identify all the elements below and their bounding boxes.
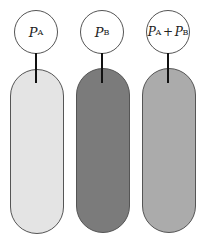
subscript: A — [37, 28, 43, 37]
subscript: A — [156, 28, 161, 37]
label-bubble-sum: PA+PB — [146, 10, 190, 54]
connector-line — [167, 53, 169, 83]
symbol-p: P — [175, 25, 183, 39]
connector-line — [101, 53, 103, 83]
label-bubble-b: PB — [80, 10, 124, 54]
connector-line — [35, 53, 37, 83]
plus-operator: + — [163, 25, 173, 39]
tube-unit-sum: PA+PB — [135, 0, 200, 242]
tube-unit-a: PA — [3, 0, 69, 242]
symbol-p: P — [95, 25, 104, 40]
subscript: B — [103, 28, 109, 37]
symbol-p: P — [148, 25, 156, 39]
subscript: B — [183, 28, 189, 37]
tube-unit-b: PB — [69, 0, 135, 242]
tube-sum — [142, 68, 196, 233]
tube-b — [76, 68, 130, 233]
tube-a — [10, 69, 64, 234]
label-bubble-a: PA — [14, 10, 58, 54]
